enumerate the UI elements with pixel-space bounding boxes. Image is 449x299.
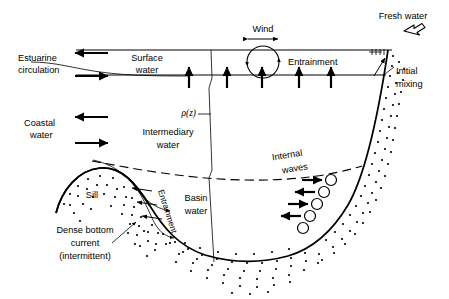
sill-label: Sill (86, 190, 98, 200)
sill-outline (56, 168, 150, 213)
estuarine-circulation-label-line2: circulation (18, 65, 59, 75)
internal-waves-dashed-line (92, 161, 362, 180)
coastal-water-label-line1: Coastal (24, 118, 55, 128)
internal-wave-marker (298, 223, 309, 234)
fresh-water-label: Fresh water (379, 11, 428, 21)
internal-wave-marker (305, 211, 316, 222)
right-slope-sediment-stipple (321, 55, 405, 261)
intermediary-water-label-line1: Intermediary (142, 127, 193, 137)
initial-mixing-label-line2: mixing (396, 79, 423, 89)
surface-water-label-line1: Surface (131, 53, 163, 63)
dense-bottom-current-label-line3: (intermittent) (59, 251, 111, 261)
dense-bottom-current-pointer (112, 222, 136, 243)
internal-wave-arrows (281, 180, 322, 216)
basin-water-label-line1: Basin (185, 193, 208, 203)
basin-water-label-line2: water (184, 206, 207, 216)
internal-waves-label-line2: waves (280, 161, 309, 175)
entrainment-top-label: Entrainment (288, 57, 338, 67)
fjord-cross-section-svg: Entrainment (0, 0, 449, 299)
fresh-water-arrow (404, 24, 425, 36)
estuarine-circulation-label-line1: Estuarine (18, 53, 57, 63)
wind-label: Wind (253, 24, 274, 34)
surface-water-label-line2: water (135, 65, 158, 75)
internal-wave-marker (319, 187, 330, 198)
initial-mixing-label-line1: Initial (396, 66, 417, 76)
dense-bottom-current-label-line1: Dense bottom (56, 225, 114, 235)
dense-bottom-current-label-line2: current (71, 238, 100, 248)
internal-waves-label-line1: Internal (271, 148, 303, 163)
fjord-diagram: Entrainment (0, 0, 449, 299)
internal-wave-marker (326, 175, 337, 186)
entrainment-sill-label: Entrainment (156, 188, 180, 235)
intermediary-water-label-line2: water (156, 140, 179, 150)
density-profile-label: ρ(z) (181, 108, 196, 119)
coastal-water-label-line2: water (29, 130, 52, 140)
density-profile-line (209, 50, 214, 262)
internal-wave-marker (312, 199, 323, 210)
